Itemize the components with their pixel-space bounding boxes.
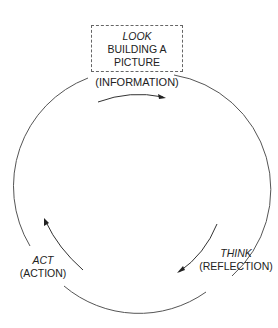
cycle-circle-arc-left <box>13 78 88 246</box>
act-title: ACT <box>10 254 76 267</box>
cycle-circle-arc-bottom <box>64 286 206 313</box>
act-detail: (ACTION) <box>10 267 76 280</box>
think-stage-label: THINK (REFLECTION) <box>196 247 276 273</box>
arrowhead-icon <box>177 266 185 273</box>
look-subtitle-line-1: BUILDING A <box>91 43 183 56</box>
arrowhead-icon <box>158 94 166 99</box>
think-detail: (REFLECTION) <box>196 260 276 273</box>
arrowhead-icon <box>44 218 49 226</box>
arrow-look-to-think <box>98 94 163 102</box>
think-title: THINK <box>196 247 276 260</box>
look-title: LOOK <box>91 30 183 43</box>
cycle-circle-arc-right <box>174 75 271 276</box>
look-stage-label: LOOK BUILDING A PICTURE <box>91 30 183 69</box>
look-subtitle-line-2: PICTURE <box>91 56 183 69</box>
act-stage-label: ACT (ACTION) <box>10 254 76 280</box>
look-detail: (INFORMATION) <box>86 76 188 89</box>
